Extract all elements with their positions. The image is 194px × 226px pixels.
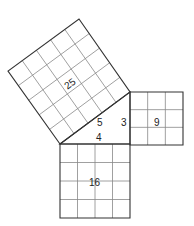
label-9: 9: [154, 117, 160, 128]
square-25-gridline: [29, 48, 100, 100]
pythagoras-diagram: 25 9 16 5 3 4: [0, 0, 194, 226]
square-25-gridline: [18, 34, 89, 86]
right-triangle: [60, 92, 130, 144]
label-25: 25: [62, 76, 78, 92]
square-25-gridline: [51, 40, 102, 113]
square-25-gridline: [39, 63, 109, 115]
label-16: 16: [89, 177, 101, 188]
label-vertical-side: 3: [121, 117, 127, 128]
square-25-gridline: [65, 29, 116, 102]
label-hypotenuse: 5: [97, 117, 103, 128]
square-25-gridline: [36, 50, 88, 123]
label-horizontal-side: 4: [96, 132, 102, 143]
square-25-gridline: [50, 77, 120, 129]
square-25-gridline: [22, 61, 74, 134]
